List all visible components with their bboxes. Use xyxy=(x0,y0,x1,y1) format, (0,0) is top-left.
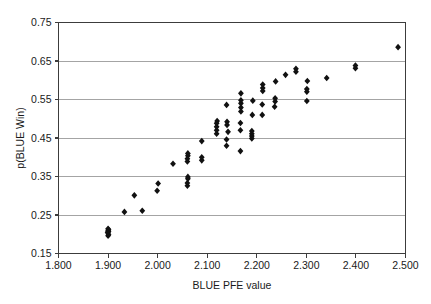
data-point-marker xyxy=(122,209,128,216)
data-point-marker xyxy=(155,180,161,187)
y-tick-label: 0.45 xyxy=(31,132,52,144)
chart-canvas: 0.150.250.350.450.550.650.751.8001.9002.… xyxy=(0,0,431,304)
data-point-marker xyxy=(224,142,230,149)
data-point-marker xyxy=(273,78,279,85)
y-axis-title: p(BLUE Win) xyxy=(14,107,26,168)
data-point-marker xyxy=(131,192,137,199)
data-point-marker xyxy=(259,112,265,119)
data-point-marker xyxy=(224,136,230,143)
x-tick-label: 1.900 xyxy=(95,259,121,271)
x-tick-label: 2.000 xyxy=(145,259,171,271)
y-tick-label: 0.15 xyxy=(31,247,52,259)
data-point-marker xyxy=(238,90,244,97)
data-point-marker xyxy=(225,129,231,136)
x-tick-label: 2.400 xyxy=(343,259,369,271)
data-point-marker xyxy=(154,187,160,194)
x-tick-label: 1.800 xyxy=(45,259,71,271)
x-tick-label: 2.200 xyxy=(244,259,270,271)
scatter-chart-figure: 0.150.250.350.450.550.650.751.8001.9002.… xyxy=(0,0,431,304)
x-tick-label: 2.100 xyxy=(194,259,220,271)
data-point-marker xyxy=(249,112,255,119)
data-point-marker xyxy=(283,72,289,79)
data-point-marker xyxy=(260,81,266,88)
data-point-marker xyxy=(304,98,310,105)
data-point-marker xyxy=(324,75,330,82)
data-point-marker xyxy=(272,104,278,111)
data-point-marker xyxy=(250,97,256,104)
data-point-marker xyxy=(170,160,176,167)
x-axis-title: BLUE PFE value xyxy=(193,279,272,291)
x-tick-label: 2.300 xyxy=(293,259,319,271)
data-point-marker xyxy=(139,207,145,214)
data-point-marker xyxy=(304,78,310,85)
y-tick-label: 0.35 xyxy=(31,170,52,182)
y-tick-label: 0.55 xyxy=(31,93,52,105)
y-tick-label: 0.65 xyxy=(31,55,52,67)
data-point-marker xyxy=(238,120,244,127)
data-point-marker xyxy=(395,44,401,51)
data-point-marker xyxy=(224,102,230,109)
data-point-marker xyxy=(238,148,244,155)
x-tick-label: 2.500 xyxy=(392,259,418,271)
data-point-marker xyxy=(199,138,205,145)
data-point-marker xyxy=(238,127,244,134)
data-point-marker xyxy=(259,101,265,108)
y-tick-label: 0.25 xyxy=(31,209,52,221)
y-tick-label: 0.75 xyxy=(31,16,52,28)
